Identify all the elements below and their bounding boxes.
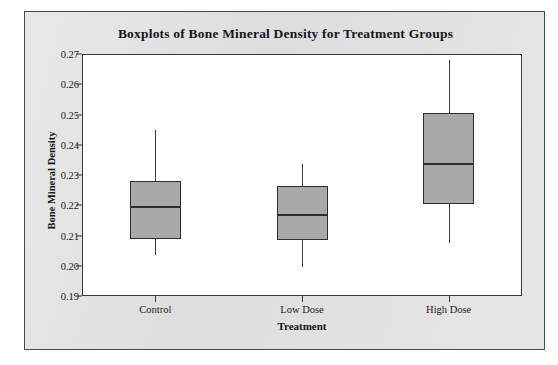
median-line xyxy=(130,206,181,208)
whisker-lower xyxy=(449,204,450,243)
median-line xyxy=(423,163,474,165)
y-axis-tick-mark xyxy=(76,235,82,236)
y-axis-title: Bone Mineral Density xyxy=(46,111,57,251)
x-axis-title: Treatment xyxy=(82,320,522,332)
y-axis-tick-mark xyxy=(76,265,82,266)
whisker-upper xyxy=(302,164,303,185)
x-axis-tick-label-high-dose: High Dose xyxy=(426,304,471,315)
x-axis-tick-mark xyxy=(449,296,450,302)
box-low-dose xyxy=(277,186,328,240)
whisker-upper xyxy=(155,130,156,181)
x-axis-tick-label-low-dose: Low Dose xyxy=(280,304,323,315)
figure-frame: Boxplots of Bone Mineral Density for Tre… xyxy=(24,11,545,350)
chart-title: Boxplots of Bone Mineral Density for Tre… xyxy=(25,26,546,42)
y-axis-tick-mark xyxy=(76,114,82,115)
median-line xyxy=(277,214,328,216)
y-axis-tick-mark xyxy=(76,144,82,145)
box-control xyxy=(130,181,181,238)
x-axis-tick-label-control: Control xyxy=(139,304,171,315)
y-axis-tick-mark xyxy=(76,84,82,85)
x-axis-tick-mark xyxy=(302,296,303,302)
y-axis-tick-mark xyxy=(76,54,82,55)
y-axis-tick-mark xyxy=(76,205,82,206)
box-high-dose xyxy=(423,113,474,204)
whisker-lower xyxy=(155,239,156,256)
y-axis-tick-mark xyxy=(76,296,82,297)
x-axis-tick-mark xyxy=(155,296,156,302)
y-axis-tick-labels: 0.270.260.250.240.230.220.210.200.19 xyxy=(37,54,79,296)
whisker-upper xyxy=(449,60,450,113)
y-axis-tick-mark xyxy=(76,175,82,176)
whisker-lower xyxy=(302,240,303,267)
